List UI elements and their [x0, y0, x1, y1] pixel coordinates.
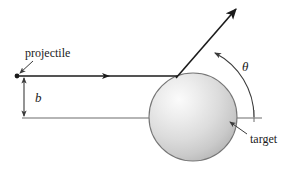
scattering-angle-label: θ — [242, 59, 249, 74]
projectile-point — [15, 74, 20, 79]
target-sphere — [149, 73, 237, 161]
projectile-label: projectile — [25, 46, 70, 60]
target-label: target — [250, 132, 278, 146]
outgoing-ray — [176, 9, 236, 78]
scattering-diagram: projectile b θ target — [0, 0, 292, 170]
impact-parameter-label: b — [35, 90, 42, 105]
diagram-canvas: projectile b θ target — [0, 0, 292, 170]
projectile-leader-line — [20, 61, 33, 73]
